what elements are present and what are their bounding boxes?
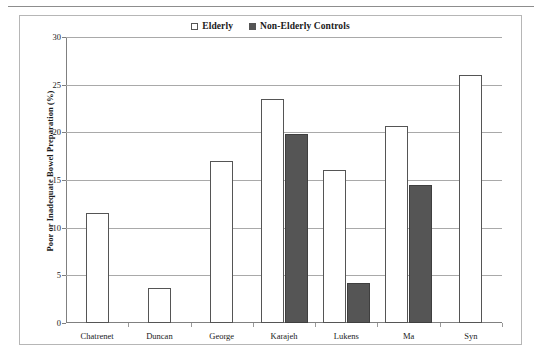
y-tick-mark [62, 85, 66, 86]
bar-lukens-elderly [323, 170, 346, 323]
y-tick-mark [62, 37, 66, 38]
x-tick-mark [440, 323, 441, 327]
y-tick-mark [62, 275, 66, 276]
x-tick-label: Chatrenet [81, 331, 114, 341]
x-tick-mark [191, 323, 192, 327]
x-tick-label: Lukens [334, 331, 359, 341]
y-tick-label: 20 [53, 127, 62, 137]
x-tick-mark [315, 323, 316, 327]
x-tick-label: Karajeh [271, 331, 298, 341]
x-tick-label: Ma [403, 331, 414, 341]
legend-item-elderly: Elderly [191, 21, 233, 31]
bar-syn-elderly [459, 75, 482, 323]
y-tick-mark [62, 180, 66, 181]
y-tick-label: 15 [53, 175, 62, 185]
legend-swatch-filled-square-icon [249, 23, 256, 30]
y-tick-label: 0 [57, 318, 61, 328]
y-tick-label: 5 [57, 270, 61, 280]
gridline [66, 85, 502, 86]
bar-lukens-non-elderly-controls [347, 283, 370, 323]
bar-ma-elderly [385, 126, 408, 323]
page-divider-rule [8, 6, 534, 7]
x-tick-label: George [209, 331, 234, 341]
bar-ma-non-elderly-controls [409, 185, 432, 323]
chart-frame: Elderly Non-Elderly Controls Poor or Ina… [19, 15, 522, 345]
legend-swatch-open-square-icon [191, 23, 198, 30]
y-tick-label: 25 [53, 80, 62, 90]
plot-inner: 051015202530ChatrenetDuncanGeorgeKarajeh… [66, 37, 502, 323]
y-tick-label: 10 [53, 223, 62, 233]
y-axis-title: Poor or Inadequate Bowel Preparation (%) [45, 55, 55, 287]
bar-chatrenet-elderly [86, 213, 109, 323]
y-tick-label: 30 [53, 32, 62, 42]
x-tick-mark [377, 323, 378, 327]
x-tick-label: Duncan [146, 331, 172, 341]
x-tick-label: Syn [464, 331, 477, 341]
y-tick-mark [62, 323, 66, 324]
gridline [66, 37, 502, 38]
chart-legend: Elderly Non-Elderly Controls [20, 21, 521, 31]
y-tick-mark [62, 132, 66, 133]
plot-area: 051015202530ChatrenetDuncanGeorgeKarajeh… [66, 37, 502, 323]
y-tick-mark [62, 228, 66, 229]
x-tick-mark [128, 323, 129, 327]
x-tick-mark [502, 323, 503, 327]
bar-karajeh-non-elderly-controls [285, 134, 308, 323]
legend-label-elderly: Elderly [202, 21, 233, 31]
bar-george-elderly [210, 161, 233, 323]
gridline [66, 132, 502, 133]
legend-item-non-elderly-controls: Non-Elderly Controls [249, 21, 350, 31]
x-tick-mark [253, 323, 254, 327]
legend-label-non-elderly-controls: Non-Elderly Controls [260, 21, 350, 31]
bar-karajeh-elderly [261, 99, 284, 323]
bar-duncan-elderly [148, 288, 171, 323]
